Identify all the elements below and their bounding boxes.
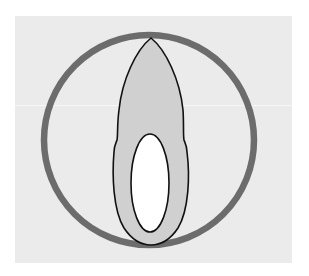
inner-oval — [131, 134, 169, 232]
diagram-canvas — [0, 0, 309, 276]
